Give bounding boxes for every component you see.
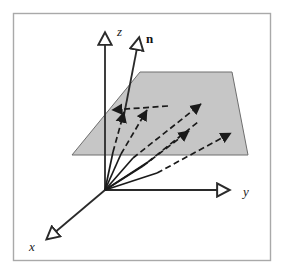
- y-axis-label: y: [241, 184, 249, 199]
- vector-plane-diagram: z y x n: [0, 0, 285, 276]
- x-axis-label: x: [28, 239, 35, 254]
- figure-container: z y x n: [0, 0, 285, 276]
- z-axis-label: z: [116, 24, 122, 39]
- normal-vector-label: n: [146, 31, 154, 46]
